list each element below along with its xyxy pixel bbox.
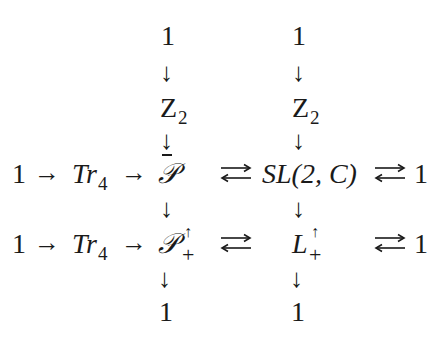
down-arrow-icon: ↓ — [292, 60, 305, 86]
middle-row-start-one: 1 — [12, 160, 26, 188]
lorentz-group-label: L — [292, 230, 308, 258]
bottom-row-end-one: 1 — [414, 230, 428, 258]
right-bottom-one: 1 — [291, 298, 305, 326]
bottom-row-start-one: 1 — [12, 230, 26, 258]
middle-row-tr4: Tr4 — [72, 160, 107, 188]
down-arrow-icon: ↓ — [160, 128, 173, 154]
bidirectional-arrow-icon — [374, 162, 406, 184]
subscript: 2 — [310, 107, 320, 128]
orthochronous-up-arrow-icon: ↑ — [311, 223, 319, 241]
z-symbol: Z — [292, 92, 309, 123]
tr-label: Tr — [72, 228, 97, 259]
left-bottom-one: 1 — [159, 298, 173, 326]
bidirectional-arrow-icon — [374, 232, 406, 254]
right-arrow-icon: → — [121, 230, 147, 256]
proper-plus-sign: + — [182, 242, 194, 268]
bidirectional-arrow-icon — [220, 162, 252, 184]
subscript: 2 — [178, 107, 188, 128]
left-z2: Z2 — [160, 94, 188, 122]
right-arrow-icon: → — [34, 230, 60, 256]
down-arrow-icon: ↓ — [160, 196, 173, 222]
tr-label: Tr — [72, 158, 97, 189]
bottom-row-tr4: Tr4 — [72, 230, 107, 258]
bidirectional-arrow-icon — [220, 232, 252, 254]
z-symbol: Z — [160, 92, 177, 123]
proper-plus-sign: + — [309, 242, 321, 268]
subscript: 4 — [98, 243, 108, 264]
right-arrow-icon: → — [121, 160, 147, 186]
down-arrow-icon: ↓ — [158, 266, 171, 292]
left-top-one: 1 — [161, 22, 175, 50]
right-z2: Z2 — [292, 94, 320, 122]
overbar — [162, 154, 172, 156]
down-arrow-icon: ↓ — [290, 266, 303, 292]
right-top-one: 1 — [292, 22, 306, 50]
orthochronous-up-arrow-icon: ↑ — [184, 223, 192, 241]
subscript: 4 — [98, 173, 108, 194]
poincare-cover-symbol: 𝒫 — [158, 160, 178, 188]
down-arrow-icon: ↓ — [160, 60, 173, 86]
middle-row-end-one: 1 — [414, 160, 428, 188]
sl2c-label: SL(2, C) — [262, 160, 357, 188]
right-arrow-icon: → — [34, 160, 60, 186]
down-arrow-icon: ↓ — [292, 128, 305, 154]
down-arrow-icon: ↓ — [292, 196, 305, 222]
proper-orthochronous-poincare-symbol: 𝒫 — [158, 230, 178, 258]
